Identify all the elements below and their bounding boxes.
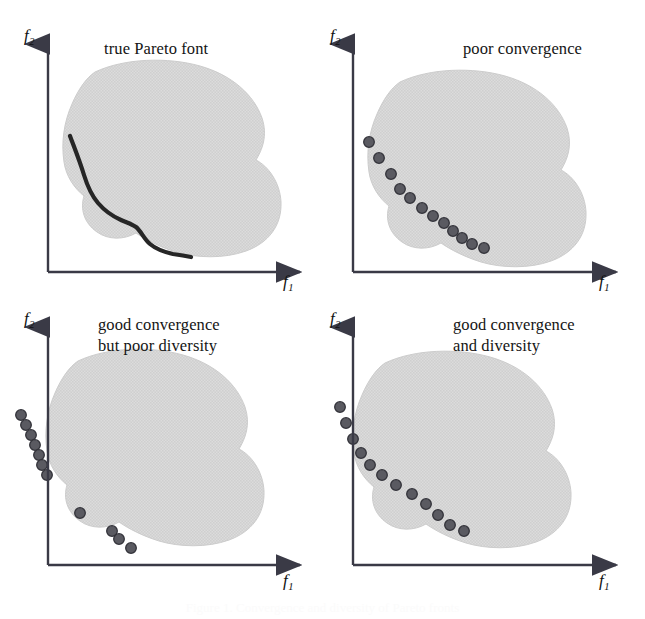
solution-point [335, 402, 346, 413]
solution-point [448, 226, 459, 237]
solution-point [26, 430, 37, 441]
panel-good-convergence-and-diversity: good convergence and diversity f2 f1 [323, 303, 645, 608]
panel-tl-title: true Pareto font [104, 38, 208, 59]
solution-point [417, 203, 428, 214]
panel-br-title: good convergence and diversity [453, 314, 575, 356]
solution-point [37, 460, 48, 471]
solution-point [126, 543, 137, 554]
solution-point [479, 243, 490, 254]
solution-point [428, 211, 439, 222]
solution-point [114, 534, 125, 545]
solution-point [405, 193, 416, 204]
solution-point [457, 233, 468, 244]
x-axis-label-sub: 1 [604, 282, 609, 293]
solution-point [386, 169, 397, 180]
solution-point [395, 184, 406, 195]
solution-point [356, 448, 367, 459]
y-axis-label-sub: 2 [335, 36, 340, 47]
solution-point [433, 510, 444, 521]
panel-bl-title: good convergence but poor diversity [98, 314, 220, 356]
y-axis-label: f2 [330, 26, 340, 46]
y-axis-label: f2 [24, 26, 34, 46]
solution-point [21, 420, 32, 431]
x-axis-label: f1 [599, 272, 609, 292]
panel-poor-convergence: poor convergence f2 f1 [323, 0, 645, 305]
panel-tr-title: poor convergence [463, 38, 582, 59]
solution-point [341, 418, 352, 429]
x-axis-label: f1 [599, 571, 609, 591]
panel-good-convergence-poor-diversity: good convergence but poor diversity f2 f… [0, 303, 322, 608]
feasible-region-blob [368, 70, 586, 267]
solution-point [407, 489, 418, 500]
solution-point [445, 520, 456, 531]
solution-point [16, 410, 27, 421]
solution-point [391, 480, 402, 491]
x-axis-label-sub: 1 [604, 581, 609, 592]
solution-point [467, 239, 478, 250]
y-axis-label: f2 [330, 309, 340, 329]
x-axis-label: f1 [283, 272, 293, 292]
y-axis-label-sub: 2 [29, 36, 34, 47]
solution-point [374, 153, 385, 164]
pareto-front-figure: true Pareto font f2 f1 [0, 0, 645, 619]
panel-true-pareto-front: true Pareto font f2 f1 [0, 0, 322, 305]
solution-point [377, 470, 388, 481]
solution-point [75, 508, 86, 519]
solution-point [421, 499, 432, 510]
solution-point [439, 218, 450, 229]
x-axis-label-sub: 1 [288, 581, 293, 592]
solution-point [365, 460, 376, 471]
solution-point [459, 526, 470, 537]
x-axis-label-sub: 1 [288, 282, 293, 293]
x-axis-label: f1 [283, 571, 293, 591]
figure-caption: Figure 1. Convergence and diversity of P… [0, 600, 645, 619]
solution-point [34, 450, 45, 461]
y-axis-label: f2 [24, 309, 34, 329]
solution-point [364, 137, 375, 148]
feasible-region-blob [353, 351, 571, 548]
solution-point [30, 440, 41, 451]
feasible-region-blob [63, 60, 281, 257]
y-axis-label-sub: 2 [29, 319, 34, 330]
y-axis-label-sub: 2 [335, 319, 340, 330]
